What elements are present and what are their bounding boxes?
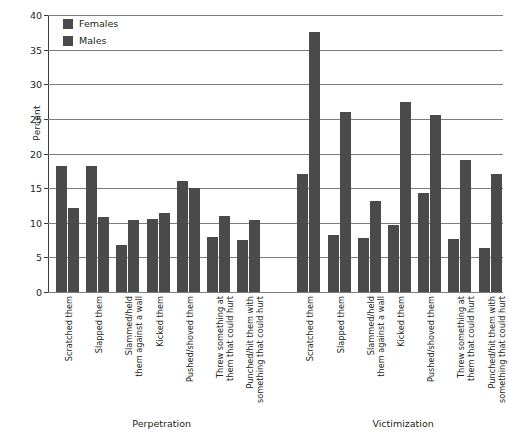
x-category-label-1-0: Scratched them: [304, 296, 316, 404]
bar-victimization-females-2: [358, 238, 369, 292]
bar-victimization-females-0: [297, 174, 308, 292]
legend-label-females: Females: [79, 19, 118, 29]
bar-victimization-males-2: [370, 201, 381, 292]
bar-series-container: [48, 15, 503, 293]
legend-item-males: Males: [63, 33, 118, 48]
y-tick-label-25: 25: [30, 113, 42, 124]
x-axis-category-labels: Scratched themSlapped themSlammed/heldth…: [48, 296, 503, 404]
group-label-victimization: Victimization: [343, 418, 463, 429]
bar-victimization-females-5: [448, 239, 459, 292]
bar-chart: Percent 0510152025303540 Females Males S…: [0, 0, 509, 446]
bar-perpetration-females-2: [116, 245, 127, 292]
bar-perpetration-males-4: [189, 188, 200, 292]
x-category-label-1-2-line2: them against a wall: [375, 296, 387, 404]
x-category-label-1-4: Pushed/shoved them: [425, 296, 437, 404]
x-category-label-0-1: Slapped them: [93, 296, 105, 404]
legend: Females Males: [63, 16, 118, 50]
bar-perpetration-females-4: [177, 181, 188, 292]
x-category-label-0-2-line2: them against a wall: [133, 296, 145, 404]
bar-victimization-males-3: [400, 102, 411, 292]
x-category-label-1-5-line2: them that could hurt: [465, 296, 477, 404]
legend-item-females: Females: [63, 16, 118, 31]
y-tick-label-15: 15: [30, 183, 42, 194]
bar-victimization-males-5: [460, 160, 471, 292]
legend-label-males: Males: [79, 36, 106, 46]
y-tick-label-10: 10: [30, 217, 42, 228]
bar-perpetration-females-0: [56, 166, 67, 292]
x-category-label-0-5-line2: them that could hurt: [224, 296, 236, 404]
bar-victimization-females-1: [328, 235, 339, 292]
plot-area: 0510152025303540: [48, 15, 503, 293]
y-tick-label-5: 5: [36, 252, 42, 263]
bar-victimization-females-4: [418, 193, 429, 292]
legend-swatch-females: [63, 19, 73, 29]
legend-swatch-males: [63, 36, 73, 46]
bar-victimization-females-3: [388, 225, 399, 292]
bar-perpetration-females-5: [207, 237, 218, 292]
y-tick-label-30: 30: [30, 79, 42, 90]
x-category-label-1-3: Kicked them: [395, 296, 407, 404]
y-tick-label-20: 20: [30, 148, 42, 159]
bar-victimization-males-4: [430, 115, 441, 292]
bar-victimization-males-6: [491, 174, 502, 292]
y-tick-label-35: 35: [30, 44, 42, 55]
bar-perpetration-males-2: [128, 220, 139, 292]
bar-perpetration-females-6: [237, 240, 248, 292]
bar-perpetration-males-6: [249, 220, 260, 292]
x-category-label-0-3: Kicked them: [154, 296, 166, 404]
bar-perpetration-females-1: [86, 166, 97, 292]
bar-victimization-males-1: [340, 112, 351, 292]
x-category-label-0-4: Pushed/shoved them: [184, 296, 196, 404]
bar-victimization-females-6: [479, 248, 490, 292]
bar-perpetration-males-0: [68, 208, 79, 292]
bar-perpetration-females-3: [147, 219, 158, 292]
group-label-perpetration: Perpetration: [102, 418, 222, 429]
x-category-label-1-1: Slapped them: [335, 296, 347, 404]
bar-victimization-males-0: [309, 32, 320, 292]
bar-perpetration-males-3: [159, 213, 170, 292]
x-category-label-1-6-line2: something that could hurt: [496, 296, 508, 404]
bar-perpetration-males-1: [98, 217, 109, 292]
x-category-label-0-6-line2: something that could hurt: [254, 296, 266, 404]
bar-perpetration-males-5: [219, 216, 230, 292]
y-tick-label-0: 0: [36, 287, 42, 298]
y-tick-label-40: 40: [30, 10, 42, 21]
x-category-label-0-0: Scratched them: [63, 296, 75, 404]
